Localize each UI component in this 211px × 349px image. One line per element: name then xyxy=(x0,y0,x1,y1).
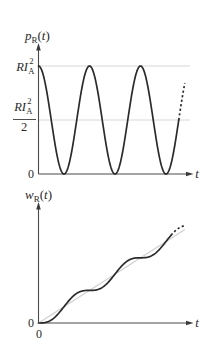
energy-chart: wR(t) 0 0 t xyxy=(25,187,199,341)
tick-half-superscript: 2 xyxy=(27,96,31,106)
x-tick-label-zero: 0 xyxy=(36,327,42,341)
x-axis-label: t xyxy=(195,167,199,181)
x-axis-label: t xyxy=(195,316,199,330)
power-curve-continuation xyxy=(179,83,185,120)
tick-label-zero: 0 xyxy=(28,167,34,181)
y-label-symbol: w xyxy=(25,187,34,202)
tick-label-half: RI A 2 2 xyxy=(13,96,36,135)
tick-half-denominator: 2 xyxy=(21,120,27,134)
tick-half-symbol: RI xyxy=(13,100,27,114)
y-axis-label: wR(t) xyxy=(25,187,52,204)
y-axis-label: pR(t) xyxy=(24,28,50,45)
tick-max-superscript: 2 xyxy=(29,56,33,66)
power-chart: pR(t) RI A 2 RI A 2 2 0 t xyxy=(13,28,199,181)
x-axis-arrow-icon xyxy=(186,321,194,326)
tick-label-max: RI A 2 xyxy=(15,56,35,76)
tick-max-subscript: A xyxy=(28,66,35,76)
y-tick-label-zero: 0 xyxy=(28,316,34,330)
average-energy-line xyxy=(39,229,185,323)
x-axis-arrow-icon xyxy=(186,172,194,177)
y-label-paren-close: ) xyxy=(48,187,52,202)
y-label-paren-close: ) xyxy=(45,28,49,43)
tick-max-symbol: RI xyxy=(15,60,29,74)
tick-half-subscript: A xyxy=(26,106,33,116)
figure: pR(t) RI A 2 RI A 2 2 0 t wR(t) 0 0 t xyxy=(0,0,211,349)
